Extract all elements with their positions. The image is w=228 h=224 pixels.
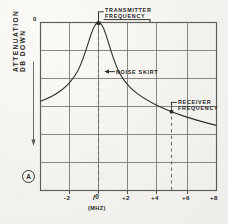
f0-subscript: 0 [95,193,99,200]
noise-skirt-leader [104,70,114,74]
figure-panel: 0 ATTENUATION DB DOWN TRANSMITTER FREQUE… [0,0,228,224]
transmitter-frequency-marker [97,21,101,25]
annotation-receiver-frequency: RECEIVER FREQUENCY [178,99,218,112]
y-axis-caption: ATTENUATION DB DOWN [12,0,26,72]
attenuation-direction-arrow [32,62,36,146]
annotation-transmitter-frequency-line-2: FREQUENCY [105,13,152,19]
annotation-transmitter-frequency: TRANSMITTER FREQUENCY [105,7,152,20]
x-axis-unit-label: (MHZ) [88,205,106,212]
y-axis-zero-label: 0 [33,16,37,23]
y-axis-caption-line-1: ATTENUATION [12,0,19,72]
panel-letter-badge: A [22,170,35,183]
receiver-frequency-leader [171,102,176,109]
x-tick-label-plus-8: +8 [210,194,218,201]
x-tick-label-plus-4: +4 [151,194,159,201]
x-tick-label-plus-6: +6 [182,194,190,201]
annotation-noise-skirt-line-1: NOISE SKIRT [116,69,158,75]
y-axis-caption-line-2: DB DOWN [19,0,26,72]
x-tick-label-plus-2: +2 [122,194,130,201]
receiver-frequency-marker [170,110,173,113]
attenuation-plot [0,0,228,224]
x-tick-label-center-frequency: f0 [93,193,99,201]
annotation-noise-skirt: NOISE SKIRT [116,69,158,75]
annotation-receiver-frequency-line-2: FREQUENCY [178,105,218,111]
x-tick-label-minus-2: -2 [64,194,70,201]
